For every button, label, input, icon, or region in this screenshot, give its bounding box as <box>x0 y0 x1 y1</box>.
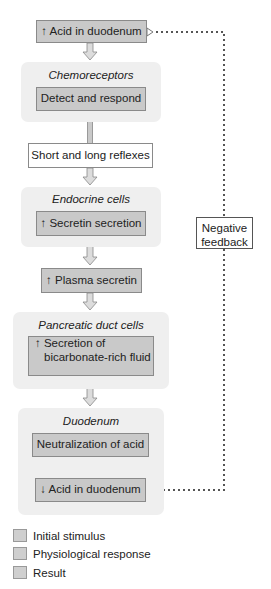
group-pancreatic-duct-cells: Pancreatic duct cells ↑ Secretion of bic… <box>13 312 169 389</box>
arrow-icon <box>83 43 97 60</box>
detect-respond-box: Detect and respond <box>36 87 146 111</box>
legend-label: Result <box>33 567 66 579</box>
secretin-secretion-box: ↑ Secretin secretion <box>36 211 146 236</box>
feedback-line: Negative <box>197 222 252 236</box>
top-stimulus-box: ↑ Acid in duodenum <box>36 20 147 43</box>
arrow-icon <box>83 293 97 310</box>
legend-initial-stimulus: Initial stimulus <box>13 529 105 542</box>
feedback-line: feedback <box>197 236 252 250</box>
neutralization-box: Neutralization of acid <box>32 433 149 457</box>
group-endocrine-cells: Endocrine cells ↑ Secretin secretion <box>21 187 161 247</box>
group-chemoreceptors: Chemoreceptors Detect and respond <box>21 62 161 122</box>
negative-feedback-box: Negative feedback <box>196 217 253 249</box>
group-label: Pancreatic duct cells <box>13 319 169 331</box>
group-duodenum: Duodenum Neutralization of acid ↓ Acid i… <box>18 408 164 515</box>
reflexes-box: Short and long reflexes <box>28 143 153 168</box>
group-label: Duodenum <box>18 415 164 427</box>
box-line: ↑ Secretion of <box>35 337 105 351</box>
arrow-icon <box>83 168 97 185</box>
legend-label: Physiological response <box>33 548 151 560</box>
bicarbonate-secretion-box: ↑ Secretion of bicarbonate-rich fluid <box>28 336 154 376</box>
legend-result: Result <box>13 566 66 579</box>
legend-swatch <box>13 566 27 579</box>
legend-physiological-response: Physiological response <box>13 547 151 560</box>
result-acid-box: ↓ Acid in duodenum <box>35 478 146 502</box>
plasma-secretin-box: ↑ Plasma secretin <box>41 268 142 293</box>
legend-swatch <box>13 547 27 560</box>
legend-label: Initial stimulus <box>33 530 105 542</box>
group-label: Chemoreceptors <box>21 69 161 81</box>
box-line: bicarbonate-rich fluid <box>35 351 151 365</box>
group-label: Endocrine cells <box>21 193 161 205</box>
legend-swatch <box>13 529 27 542</box>
